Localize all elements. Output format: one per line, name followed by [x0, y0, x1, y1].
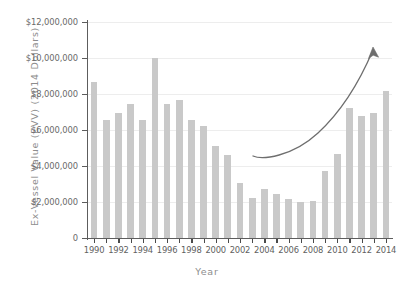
bar — [297, 202, 304, 238]
bar — [334, 154, 341, 238]
y-axis-tick-label: $12,000,000 — [0, 17, 78, 27]
bar — [358, 116, 365, 238]
bar — [237, 183, 244, 238]
bar — [115, 113, 122, 238]
y-axis-tick — [82, 166, 88, 167]
bar — [383, 91, 390, 238]
bar — [285, 199, 292, 238]
x-axis-tick — [228, 239, 229, 243]
x-axis-tick — [216, 239, 217, 243]
bar — [346, 108, 353, 239]
bar — [176, 100, 183, 238]
y-axis-tick-label: $10,000,000 — [0, 53, 78, 63]
x-axis-tick — [106, 239, 107, 243]
x-axis-tick — [240, 239, 241, 243]
bar — [127, 104, 134, 238]
bar — [188, 120, 195, 238]
gridline — [88, 22, 392, 23]
bar — [261, 189, 268, 238]
bar — [152, 58, 159, 238]
x-axis-tick — [337, 239, 338, 243]
gridline — [88, 94, 392, 95]
bar — [164, 104, 171, 238]
x-axis-tick-label: 2014 — [366, 245, 406, 255]
x-axis-tick — [204, 239, 205, 243]
y-axis-tick-label: $4,000,000 — [0, 161, 78, 171]
y-axis-tick-label: 0 — [0, 233, 78, 243]
bar — [224, 155, 231, 238]
y-axis-tick-label: $2,000,000 — [0, 197, 78, 207]
y-axis-tick — [82, 238, 88, 239]
y-axis-tick — [82, 58, 88, 59]
bar — [91, 82, 98, 238]
plot-area — [88, 22, 392, 238]
y-axis-tick — [82, 202, 88, 203]
x-axis-tick — [289, 239, 290, 243]
bar — [139, 120, 146, 238]
x-axis-tick — [264, 239, 265, 243]
x-axis-tick — [386, 239, 387, 243]
x-axis-tick — [276, 239, 277, 243]
bar — [322, 171, 329, 239]
x-axis-tick — [179, 239, 180, 243]
x-axis-tick — [155, 239, 156, 243]
x-axis-tick — [118, 239, 119, 243]
x-axis-tick — [167, 239, 168, 243]
y-axis-tick-label: $8,000,000 — [0, 89, 78, 99]
bar — [310, 201, 317, 238]
ex-vessel-value-bar-chart: Ex-Vessel Value (EVV) (2014 Dollars) 0$2… — [0, 0, 414, 295]
x-axis-tick — [131, 239, 132, 243]
x-axis-tick — [325, 239, 326, 243]
bar — [370, 113, 377, 238]
x-axis-tick — [349, 239, 350, 243]
x-axis-tick — [252, 239, 253, 243]
bar — [212, 146, 219, 238]
x-axis-tick — [362, 239, 363, 243]
x-axis-tick — [301, 239, 302, 243]
x-axis-tick — [94, 239, 95, 243]
x-axis-tick — [143, 239, 144, 243]
gridline — [88, 58, 392, 59]
y-axis-tick — [82, 22, 88, 23]
bar — [249, 198, 256, 238]
y-axis-tick — [82, 130, 88, 131]
bar — [200, 126, 207, 238]
x-axis-tick — [374, 239, 375, 243]
bar — [103, 120, 110, 238]
y-axis-tick-label: $6,000,000 — [0, 125, 78, 135]
x-axis-title: Year — [0, 266, 414, 277]
y-axis-tick — [82, 94, 88, 95]
x-axis-tick — [191, 239, 192, 243]
x-axis-tick — [313, 239, 314, 243]
bar — [273, 194, 280, 238]
